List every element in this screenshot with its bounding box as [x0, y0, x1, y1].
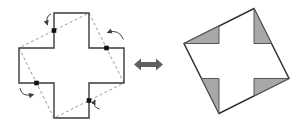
folded-flap-triangle: [254, 9, 272, 44]
dashed-cut-square: [19, 13, 124, 118]
fold-arrow: [47, 14, 51, 25]
double-arrow-icon: [134, 59, 163, 71]
dissection-diagram: [0, 0, 306, 128]
cross-figure: [19, 13, 124, 118]
greek-cross-outline: [19, 13, 124, 118]
fold-arrow: [108, 31, 124, 39]
hinge-dot: [34, 81, 39, 86]
hinge-dot: [87, 98, 92, 103]
fold-arrow: [20, 88, 34, 95]
double-arrow-glyph: [134, 59, 163, 71]
square-figure: [184, 9, 289, 114]
folded-flap-triangle: [254, 79, 289, 97]
folded-flap-triangle: [184, 26, 219, 44]
diagram-svg: [0, 0, 306, 128]
tilted-square-outline: [184, 9, 289, 114]
folded-flap-triangle: [202, 79, 220, 114]
fold-arrow: [94, 100, 99, 109]
hinge-dot: [52, 28, 57, 33]
hinge-dot: [104, 46, 109, 51]
